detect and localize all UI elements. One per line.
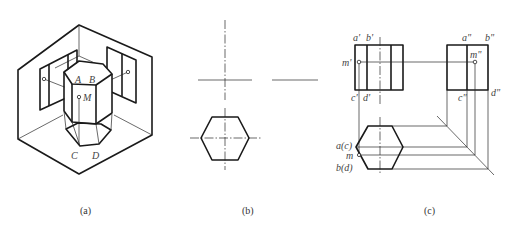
panel-b-top-view: (b) — [190, 20, 318, 217]
label-c-front: c' — [351, 92, 358, 103]
label-b-side: b" — [485, 32, 495, 43]
label-a-side: a" — [462, 32, 472, 43]
label-m-side: m" — [470, 49, 482, 60]
label-d-front: d' — [363, 92, 371, 103]
label-c-side: c" — [458, 92, 467, 103]
label-D: D — [91, 150, 100, 161]
label-M: M — [82, 92, 92, 103]
point-M — [77, 95, 80, 98]
label-a-front: a' — [353, 32, 361, 43]
point-m-right — [126, 70, 129, 73]
label-B: B — [89, 74, 95, 85]
box-axis-right — [114, 115, 152, 135]
caption-c: (c) — [424, 205, 435, 217]
label-b-front: b' — [366, 32, 374, 43]
label-d-side: d" — [491, 87, 501, 98]
base-projector — [111, 113, 112, 130]
caption-a: (a) — [80, 205, 91, 217]
point-m-side — [473, 60, 477, 64]
caption-b: (b) — [242, 205, 254, 217]
label-m-front: m' — [342, 57, 352, 68]
hexagon-top-view-c — [356, 126, 403, 169]
panel-a-isometric: A B M C D (a) — [18, 25, 152, 217]
label-A: A — [74, 74, 82, 85]
point-m-front — [357, 60, 361, 64]
point-m-left — [42, 77, 45, 80]
point-m-top — [357, 153, 360, 156]
base-projector-D — [96, 124, 99, 144]
front-view-outline — [355, 45, 403, 90]
box-axis-left — [18, 115, 63, 139]
figure-canvas: A B M C D (a) (b) — [0, 0, 515, 229]
miter-line — [437, 116, 494, 175]
label-C: C — [71, 150, 78, 161]
panel-c-three-view: a' b' m' c' d' a" b" m" c" d" a(c) m b(d… — [336, 32, 501, 217]
label-bd-top: b(d) — [336, 162, 353, 174]
label-m-top: m — [346, 150, 353, 161]
